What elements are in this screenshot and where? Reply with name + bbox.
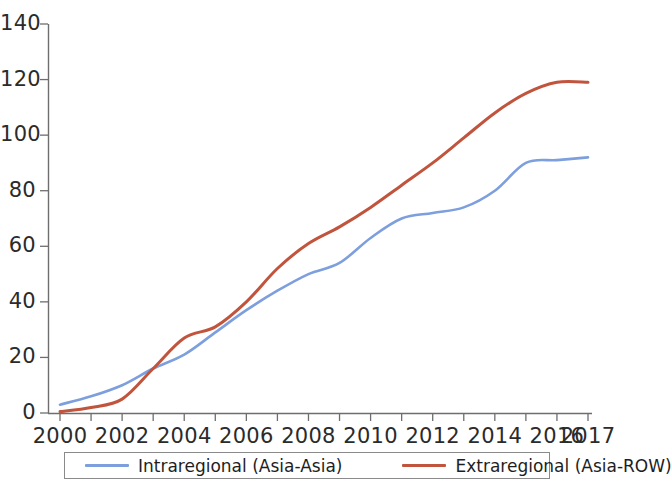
y-axis-tick-label: 120 <box>0 67 36 91</box>
data-series-group <box>60 82 588 412</box>
x-axis-ticks <box>60 413 588 421</box>
legend-item[interactable]: Extraregional (Asia-ROW) <box>388 453 671 478</box>
y-axis-tick-label: 40 <box>0 289 36 313</box>
x-axis-tick-label: 2014 <box>465 424 525 448</box>
y-axis-tick-label: 80 <box>0 178 36 202</box>
x-axis-tick-label: 2002 <box>92 424 152 448</box>
series-line-extraregional <box>60 82 588 412</box>
legend-label: Extraregional (Asia-ROW) <box>455 456 671 476</box>
y-axis-tick-label: 140 <box>0 11 36 35</box>
x-axis-tick-label: 2006 <box>216 424 276 448</box>
y-axis-tick-label: 100 <box>0 122 36 146</box>
x-axis-tick-label: 2008 <box>278 424 338 448</box>
chart-legend: Intraregional (Asia-Asia)Extraregional (… <box>64 452 550 479</box>
legend-item[interactable]: Intraregional (Asia-Asia) <box>71 453 342 478</box>
y-axis-tick-label: 0 <box>0 400 36 424</box>
y-axis-tick-label: 60 <box>0 233 36 257</box>
y-axis-ticks <box>40 24 48 413</box>
x-axis-tick-label: 2004 <box>154 424 214 448</box>
legend-label: Intraregional (Asia-Asia) <box>138 456 342 476</box>
x-axis-tick-label: 2010 <box>341 424 401 448</box>
x-axis-tick-label: 2017 <box>558 424 618 448</box>
legend-color-swatch <box>402 464 446 467</box>
series-line-intraregional <box>60 157 588 404</box>
legend-color-swatch <box>85 464 129 467</box>
y-axis-tick-label: 20 <box>0 344 36 368</box>
axis-lines <box>48 24 592 414</box>
x-axis-tick-label: 2000 <box>30 424 90 448</box>
x-axis-tick-label: 2012 <box>403 424 463 448</box>
